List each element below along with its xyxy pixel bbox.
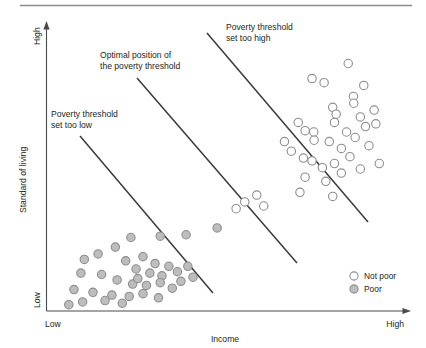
scatter-point [342,128,350,136]
y-axis-title: Standard of living [18,146,28,213]
scatter-point [142,281,150,289]
annotation-too-low-line1: Poverty threshold [51,109,118,119]
scatter-point [241,198,249,206]
scatter-point [370,106,378,114]
x-axis-low-label: Low [45,319,62,329]
scatter-point [351,133,359,141]
threshold-line-too-high [207,33,368,222]
y-axis-arrowhead [43,21,49,30]
scatter-point [139,289,147,297]
legend-label-poor: Poor [364,284,382,294]
scatter-point [318,163,326,171]
threshold-lines-group [80,33,368,293]
scatter-point [177,277,185,285]
scatter-point [139,252,147,260]
scatter-point [260,202,268,210]
annotation-optimal-line2: the poverty threshold [100,61,180,71]
scatter-point [301,126,309,134]
scatter-point [154,294,162,302]
annotation-optimal-line1: Optimal position of [100,50,172,60]
scatter-point [122,257,130,265]
scatter-point [182,231,190,239]
scatter-point [173,268,181,276]
scatter-series-poor [65,224,222,309]
x-axis-high-label: High [386,319,404,329]
scatter-point [296,188,304,196]
y-axis-high-label: High [32,27,42,45]
scatter-point [299,154,307,162]
scatter-point [113,276,121,284]
scatter-series-not-poor [232,59,384,213]
x-axis-title: Income [211,334,239,344]
scatter-point [127,233,135,241]
scatter-point [287,147,295,155]
legend-marker-poor [350,285,358,293]
scatter-point [365,142,373,150]
scatter-point [232,205,240,213]
scatter-point [118,299,126,307]
scatter-point [350,99,358,107]
scatter-point [80,255,88,263]
legend-label-not-poor: Not poor [364,271,396,281]
scatter-point [213,224,221,232]
scatter-point [375,159,383,167]
scatter-point [134,274,142,282]
scatter-point [301,173,309,181]
scatter-point [146,269,154,277]
scatter-point [356,113,364,121]
scatter-point [156,232,164,240]
scatter-point [70,285,78,293]
annotation-too-low-line2: set too low [51,120,93,130]
scatter-point [346,152,354,160]
scatter-point [330,159,338,167]
scatter-point [89,288,97,296]
scatter-point [310,136,318,144]
annotation-too-high-line1: Poverty threshold [226,22,293,32]
scatter-point [337,144,345,152]
annotation-too-high-line2: set too high [226,33,271,43]
scatter-point [344,59,352,67]
scatter-point [330,118,338,126]
threshold-line-too-low [80,136,213,293]
scatter-point [294,118,302,126]
scatter-point [253,191,261,199]
scatter-point [101,296,109,304]
scatter-point [320,78,328,86]
scatter-point [125,292,133,300]
scatter-point [360,81,368,89]
scatter-point [322,177,330,185]
scatter-point [78,298,86,306]
scatter-point [280,137,288,145]
annotation-too-high: Poverty threshold set too high [226,22,293,43]
scatter-point [132,265,140,273]
scatter-point [151,259,159,267]
chart-legend: Not poor Poor [350,271,396,294]
poverty-threshold-scatter-figure: High Low Standard of living Low High Inc… [0,0,426,348]
scatter-point [329,192,337,200]
scatter-point [184,262,192,270]
scatter-point [325,137,333,145]
scatter-point [94,250,102,258]
y-axis-low-label: Low [32,291,42,308]
scatter-point [77,269,85,277]
scatter-point [189,273,197,281]
scatter-point [308,74,316,82]
annotation-too-low: Poverty threshold set too low [51,109,118,130]
annotation-optimal: Optimal position of the poverty threshol… [100,50,180,71]
legend-marker-not-poor [350,272,358,280]
scatter-point [337,169,345,177]
scatter-point [165,262,173,270]
x-axis-arrowhead [403,308,412,314]
scatter-point [361,122,369,130]
scatter-point [356,165,364,173]
scatter-point [65,300,73,308]
scatter-point [372,120,380,128]
scatter-point [332,110,340,118]
scatter-point [168,284,176,292]
scatter-point [97,270,105,278]
scatter-point [310,128,318,136]
scatter-point [156,279,164,287]
scatter-point [111,243,119,251]
scatter-point [308,157,316,165]
